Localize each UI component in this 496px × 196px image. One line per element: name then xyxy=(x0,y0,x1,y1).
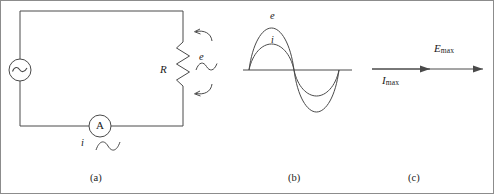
circuit-diagram xyxy=(9,11,217,150)
figure-artwork xyxy=(0,0,496,196)
panel-caption-b: (b) xyxy=(288,173,300,184)
waveform-label-e: e xyxy=(270,11,275,22)
phasor-label-e-max-symbol: E xyxy=(434,42,441,54)
waveform-diagram xyxy=(243,28,352,112)
current-label-i: i xyxy=(81,138,84,149)
phasor-label-i-max-subscript: max xyxy=(386,78,400,87)
polarity-arrow-top-curve xyxy=(196,31,212,41)
polarity-arrow-bottom-curve xyxy=(196,84,212,94)
resistor-zigzag xyxy=(177,42,190,92)
voltage-label-e: e xyxy=(199,52,204,63)
current-sine-tilde-icon xyxy=(96,142,120,150)
figure-root: R A e i e i Emax Imax (a) (b) (c) xyxy=(0,0,496,196)
voltage-sine-tilde-icon xyxy=(196,63,217,70)
phasor-label-e-max-subscript: max xyxy=(441,46,455,55)
phasor-i-max-head xyxy=(420,66,430,73)
phasor-label-e-max: Emax xyxy=(434,43,454,55)
phasor-diagram xyxy=(372,66,483,73)
waveform-label-i: i xyxy=(271,35,274,45)
panel-caption-c: (c) xyxy=(408,173,420,184)
panel-caption-a: (a) xyxy=(90,173,102,184)
resistor-label: R xyxy=(160,64,167,75)
phasor-label-i-max: Imax xyxy=(382,75,399,87)
phasor-e-max-head xyxy=(473,66,483,73)
ac-source-sine-icon xyxy=(13,67,28,71)
ammeter-label: A xyxy=(96,120,104,131)
